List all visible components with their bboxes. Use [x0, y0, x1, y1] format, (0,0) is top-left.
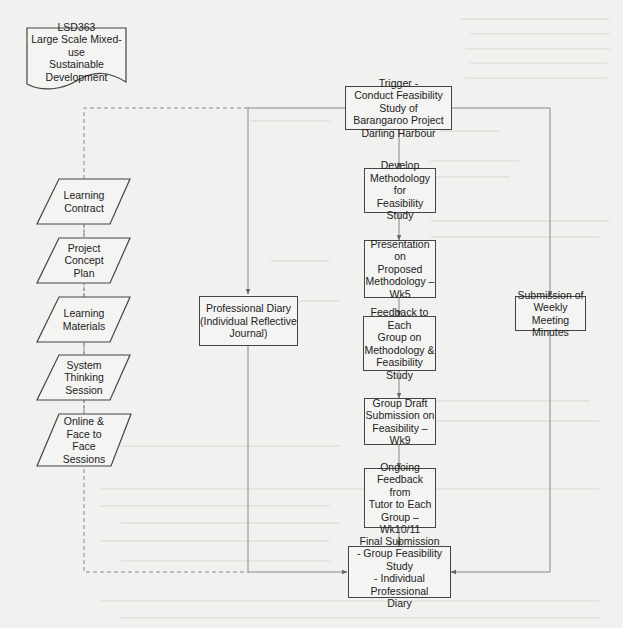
- input-system-thinking: System Thinking Session: [45, 355, 123, 400]
- input-learning-materials: Learning Materials: [45, 297, 123, 342]
- flow-step-text: Presentation on Proposed Methodology – W…: [365, 238, 435, 301]
- professional-diary-text: Professional Diary (Individual Reflectiv…: [200, 302, 297, 340]
- flow-step-text: Ongoing Feedback from Tutor to Each Grou…: [365, 461, 435, 536]
- input-text: Learning Materials: [63, 307, 106, 332]
- input-text: Learning Contract: [64, 189, 105, 214]
- professional-diary-box: Professional Diary (Individual Reflectiv…: [199, 296, 298, 346]
- weekly-minutes-text: Submission of Weekly Meeting Minutes: [516, 289, 585, 339]
- trigger-text: Trigger - Conduct Feasibility Study of B…: [346, 77, 451, 140]
- flow-step-text: Develop Methodology for Feasibility Stud…: [365, 159, 435, 222]
- final-submission-box: Final Submission - Group Feasibility Stu…: [348, 546, 451, 598]
- input-project-concept-plan: Project Concept Plan: [45, 238, 123, 283]
- flow-step-develop-methodology: Develop Methodology for Feasibility Stud…: [364, 168, 436, 213]
- final-submission-text: Final Submission - Group Feasibility Stu…: [349, 535, 450, 610]
- input-text: Online & Face to Face Sessions: [63, 415, 106, 465]
- flow-step-text: Group Draft Submission on Feasibility – …: [366, 397, 435, 447]
- flow-step-draft-submission: Group Draft Submission on Feasibility – …: [364, 398, 436, 445]
- flow-step-ongoing-feedback: Ongoing Feedback from Tutor to Each Grou…: [364, 468, 436, 528]
- flow-step-presentation: Presentation on Proposed Methodology – W…: [364, 240, 436, 298]
- course-title-text: LSD363 Large Scale Mixed-use Sustainable…: [27, 21, 126, 84]
- input-learning-contract: Learning Contract: [45, 179, 123, 224]
- input-online-sessions: Online & Face to Face Sessions: [45, 414, 123, 466]
- weekly-minutes-box: Submission of Weekly Meeting Minutes: [515, 296, 586, 331]
- input-text: Project Concept Plan: [64, 242, 103, 280]
- course-title-document: LSD363 Large Scale Mixed-use Sustainable…: [27, 30, 126, 74]
- flow-step-feedback: Feedback to Each Group on Methodology & …: [363, 316, 436, 371]
- flow-step-text: Feedback to Each Group on Methodology & …: [364, 306, 435, 381]
- trigger-box: Trigger - Conduct Feasibility Study of B…: [345, 86, 452, 130]
- input-text: System Thinking Session: [64, 359, 104, 397]
